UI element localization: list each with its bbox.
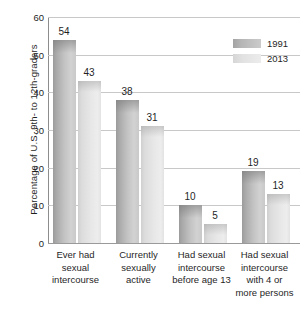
- y-tick-label: 10: [4, 200, 44, 211]
- category-label-line: before age 13: [170, 274, 233, 287]
- category-label-3: Had sexualintercoursewith 4 ormore perso…: [233, 249, 296, 299]
- gridline: [48, 17, 300, 18]
- bar-2013-cat0: [78, 81, 101, 243]
- y-tick-label: 0: [4, 238, 44, 249]
- category-label-line: with 4 or: [233, 274, 296, 287]
- category-label-line: active: [107, 274, 170, 287]
- bar-value-label: 43: [83, 67, 94, 78]
- legend-label-2013: 2013: [267, 53, 288, 64]
- y-tick-label: 40: [4, 87, 44, 98]
- y-axis-tick-labels: 0102030405060: [0, 17, 44, 243]
- bar-1991-cat1: [116, 100, 139, 243]
- legend-swatch-2013: [233, 54, 261, 63]
- bar-2013-cat3: [267, 194, 290, 243]
- legend: 19912013: [233, 36, 288, 66]
- category-label-2: Had sexualintercoursebefore age 13: [170, 249, 233, 287]
- y-tick-label: 30: [4, 125, 44, 136]
- legend-item-2013: 2013: [233, 51, 288, 66]
- bar-value-label: 19: [247, 157, 258, 168]
- category-label-line: intercourse: [170, 262, 233, 275]
- category-label-line: sexually: [107, 262, 170, 275]
- category-label-0: Ever hadsexualintercourse: [44, 249, 107, 287]
- category-label-line: Had sexual: [170, 249, 233, 262]
- legend-item-1991: 1991: [233, 36, 288, 51]
- category-label-line: Had sexual: [233, 249, 296, 262]
- bar-1991-cat0: [53, 40, 76, 243]
- bar-value-label: 5: [212, 210, 218, 221]
- category-label-line: Currently: [107, 249, 170, 262]
- bar-value-label: 31: [146, 112, 157, 123]
- gridline: [48, 243, 300, 244]
- bar-1991-cat2: [179, 205, 202, 243]
- bar-2013-cat1: [141, 126, 164, 243]
- bar-value-label: 38: [121, 86, 132, 97]
- category-label-line: intercourse: [233, 262, 296, 275]
- bar-2013-cat2: [204, 224, 227, 243]
- category-label-line: intercourse: [44, 274, 107, 287]
- bar-value-label: 54: [58, 26, 69, 37]
- y-tick-label: 60: [4, 12, 44, 23]
- bar-value-label: 10: [184, 191, 195, 202]
- bar-1991-cat3: [242, 171, 265, 243]
- category-label-line: sexual: [44, 262, 107, 275]
- bar-value-label: 13: [272, 180, 283, 191]
- bar-chart: Percentage of U.S. 9th- to 12th-graders …: [0, 0, 308, 310]
- x-axis-category-labels: Ever hadsexualintercourseCurrentlysexual…: [48, 249, 300, 307]
- y-tick-label: 20: [4, 162, 44, 173]
- legend-label-1991: 1991: [267, 38, 288, 49]
- category-label-1: Currentlysexuallyactive: [107, 249, 170, 287]
- y-tick-label: 50: [4, 49, 44, 60]
- category-label-line: Ever had: [44, 249, 107, 262]
- legend-swatch-1991: [233, 39, 261, 48]
- category-label-line: more persons: [233, 287, 296, 300]
